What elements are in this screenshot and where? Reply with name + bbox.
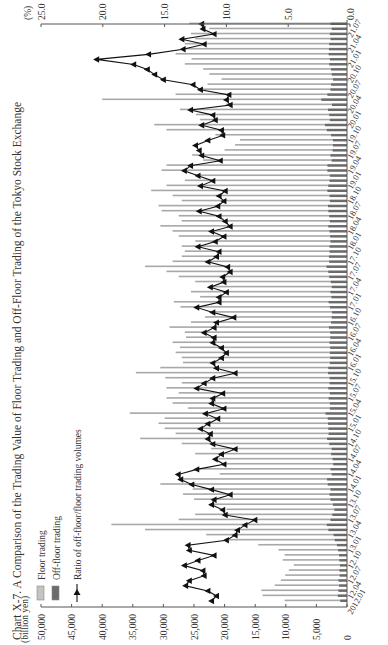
off-floor-bar xyxy=(332,311,347,313)
off-floor-bar xyxy=(330,498,347,500)
floor-bar xyxy=(162,210,347,212)
off-floor-bar xyxy=(329,326,347,328)
off-floor-bar xyxy=(335,539,347,541)
floor-bar xyxy=(222,78,347,80)
floor-bar xyxy=(180,109,347,111)
floor-bar xyxy=(263,595,347,597)
ratio-marker-icon xyxy=(144,66,150,72)
floor-bar xyxy=(182,255,347,257)
off-floor-bar xyxy=(328,387,347,389)
floor-bar xyxy=(173,402,347,404)
ratio-marker-icon xyxy=(130,61,136,67)
legend-ratio-marker-icon xyxy=(74,589,81,595)
off-floor-bar xyxy=(329,53,347,55)
off-floor-bar xyxy=(332,316,347,318)
ratio-marker-icon xyxy=(219,390,225,396)
off-floor-bar xyxy=(340,600,347,602)
floor-bar xyxy=(220,473,347,475)
ratio-marker-icon xyxy=(209,340,215,346)
off-floor-bar xyxy=(339,584,347,586)
floor-bar xyxy=(166,271,347,273)
ratio-marker-icon xyxy=(211,552,217,558)
floor-bar xyxy=(195,174,347,176)
off-floor-bar xyxy=(333,149,347,151)
left-axis-tick-label: 35,000 xyxy=(128,614,138,640)
floor-bar xyxy=(186,336,347,338)
floor-bar xyxy=(195,514,347,516)
floor-bar xyxy=(180,347,347,349)
floor-bar xyxy=(203,68,347,70)
right-axis-tick-label: 10.0 xyxy=(222,3,232,20)
ratio-marker-icon xyxy=(194,173,200,179)
floor-bar xyxy=(159,205,347,207)
off-floor-bar xyxy=(330,88,347,90)
floor-bar xyxy=(165,417,347,419)
ratio-marker-icon xyxy=(181,562,187,568)
off-floor-bar xyxy=(330,331,347,333)
floor-bar xyxy=(188,407,347,409)
ratio-marker-icon xyxy=(208,502,214,508)
off-floor-bar xyxy=(329,255,347,257)
ratio-marker-icon xyxy=(223,97,229,103)
off-floor-bar xyxy=(327,190,347,192)
ratio-marker-icon xyxy=(196,147,202,153)
ratio-marker-icon xyxy=(215,213,221,219)
floor-bar xyxy=(183,493,347,495)
off-floor-bar xyxy=(339,559,347,561)
off-floor-bar xyxy=(330,377,347,379)
floor-bar xyxy=(176,93,347,95)
ratio-marker-icon xyxy=(218,345,224,351)
floor-bar xyxy=(200,119,347,121)
ratio-marker-icon xyxy=(211,31,217,37)
right-axis-tick-label: 15.0 xyxy=(160,3,170,20)
off-floor-bar xyxy=(328,372,347,374)
ratio-marker-icon xyxy=(224,264,230,270)
floor-bar xyxy=(179,235,347,237)
off-floor-bar xyxy=(330,220,347,222)
floor-bar xyxy=(211,286,347,288)
off-floor-bar xyxy=(330,235,347,237)
ratio-marker-icon xyxy=(208,228,214,234)
off-floor-bar xyxy=(332,286,347,288)
ratio-marker-icon xyxy=(220,461,226,467)
left-axis-tick-label: 20,000 xyxy=(220,614,230,640)
floor-bar xyxy=(130,412,347,414)
ratio-marker-icon xyxy=(212,238,218,244)
ratio-marker-icon xyxy=(197,426,203,432)
left-axis-tick-label: 25,000 xyxy=(190,614,200,640)
floor-bar xyxy=(111,524,347,526)
off-floor-bar xyxy=(328,225,347,227)
floor-bar xyxy=(182,48,347,50)
ratio-marker-icon xyxy=(175,471,181,477)
ratio-marker-icon xyxy=(209,178,215,184)
ratio-marker-icon xyxy=(204,436,210,442)
ratio-marker-icon xyxy=(198,122,204,128)
floor-bar xyxy=(160,225,347,227)
off-floor-bar xyxy=(339,554,347,556)
off-floor-bar xyxy=(328,422,347,424)
floor-bar xyxy=(207,83,347,85)
legend: Floor tradingOff-floor tradingRatio of o… xyxy=(37,429,83,602)
floor-bar xyxy=(173,230,347,232)
legend-floor-label: Floor trading xyxy=(37,530,47,580)
floor-bar xyxy=(165,428,347,430)
off-floor-bar xyxy=(327,129,347,131)
off-floor-bar xyxy=(330,468,347,470)
off-floor-bar xyxy=(330,195,347,197)
chart-title: Chart X-7. A Comparison of the Trading V… xyxy=(11,102,24,640)
ratio-marker-icon xyxy=(217,157,223,163)
off-floor-bar xyxy=(329,433,347,435)
right-axis-tick-label: 20.0 xyxy=(98,3,108,20)
floor-bar xyxy=(176,53,347,55)
ratio-marker-icon xyxy=(208,598,214,604)
floor-bar xyxy=(166,397,347,399)
off-floor-bar xyxy=(321,99,347,101)
ratio-marker-icon xyxy=(214,416,220,422)
ratio-marker-icon xyxy=(186,578,192,584)
ratio-marker-icon xyxy=(185,542,191,548)
floor-bar xyxy=(182,478,347,480)
off-floor-bar xyxy=(332,514,347,516)
left-axis-tick-label: 10,000 xyxy=(281,614,291,640)
floor-bar xyxy=(285,574,347,576)
off-floor-bar xyxy=(333,463,347,465)
